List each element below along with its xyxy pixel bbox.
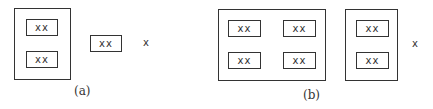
panel-b-big-inner-1: xx: [228, 20, 261, 37]
panel-a-loose-item: x: [143, 37, 149, 48]
panel-b-loose-item: x: [412, 38, 418, 49]
panel-a-inner-box-1: xx: [26, 19, 58, 36]
panel-a-inner-box-2: xx: [26, 51, 58, 68]
panel-a-caption: (a): [74, 84, 91, 98]
panel-a-single-box: xx: [90, 35, 122, 52]
panel-b-caption: (b): [303, 88, 320, 102]
panel-b-tall-inner-1: xx: [356, 20, 389, 37]
panel-b-big-inner-3: xx: [228, 52, 261, 69]
panel-b-big-inner-2: xx: [283, 20, 316, 37]
panel-b-tall-inner-2: xx: [356, 52, 389, 69]
panel-b-big-inner-4: xx: [283, 52, 316, 69]
